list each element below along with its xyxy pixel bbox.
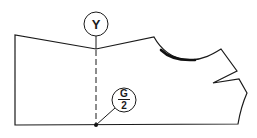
g2-leader-line (96, 108, 115, 125)
y-marker: Y (84, 12, 108, 36)
reference-point-dot (94, 123, 98, 127)
g2-marker: G 2 (112, 88, 136, 112)
g2-marker-denominator: 2 (121, 100, 127, 111)
g2-marker-numerator: G (120, 88, 128, 99)
y-marker-label: Y (92, 17, 101, 32)
pattern-outline (15, 35, 247, 125)
pattern-diagram: Y G 2 (0, 0, 257, 138)
